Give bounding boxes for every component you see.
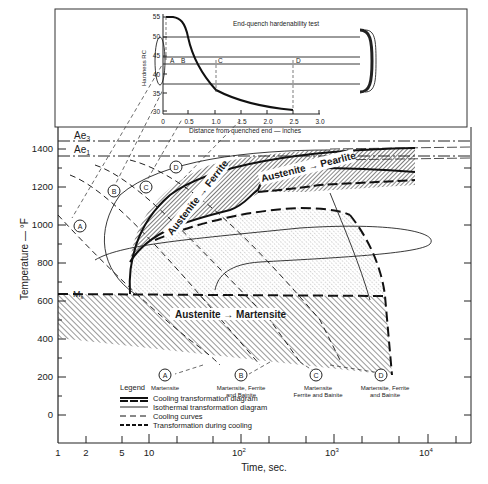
y-tick-1400: 1400	[32, 143, 53, 154]
legend-item-cooling-curves: Cooling curves	[153, 412, 203, 421]
legend-title: Legend	[120, 383, 145, 392]
x-tick-2: 2	[83, 447, 88, 458]
svg-text:B: B	[112, 188, 117, 195]
svg-text:C: C	[143, 184, 148, 191]
y-tick-400: 400	[37, 333, 53, 344]
y-tick-600: 600	[37, 295, 53, 306]
y-tick-200: 200	[37, 371, 53, 382]
ae3-label: Ae3	[74, 130, 90, 142]
inset-point-a: A	[170, 57, 175, 64]
legend-item-transformation: Transformation during cooling	[153, 421, 252, 430]
inset-x-25: 2.5	[289, 118, 298, 125]
marker-d-bottom: D	[375, 369, 387, 381]
svg-text:C: C	[313, 372, 318, 379]
result-a: Martensite	[151, 385, 180, 391]
inset-x-label: Distance from quenched end — inches	[189, 127, 302, 135]
inset-x-15: 1.5	[237, 118, 246, 125]
x-tick-1: 1	[55, 447, 60, 458]
marker-c-top: C	[140, 181, 152, 193]
martensite-label: Austenite → Martensite	[175, 309, 287, 320]
marker-a-bottom: A	[159, 369, 171, 381]
x-tick-100: 102	[232, 447, 247, 458]
svg-text:B: B	[239, 372, 244, 379]
cct-chart: 0 200 400 600 800 1000 1200 1400 Tempera…	[0, 0, 488, 484]
legend-item-isothermal: Isothermal transformation diagram	[153, 403, 267, 412]
inset-title: End-quench hardenability test	[233, 20, 319, 28]
inset-x-30: 3.0	[315, 118, 324, 125]
result-d-line1: Martensite, Ferrite	[361, 385, 410, 391]
inset-x-05: 0.5	[184, 118, 193, 125]
y-tick-1200: 1200	[32, 181, 53, 192]
result-b-line1: Martensite, Ferrite	[217, 385, 266, 391]
y-tick-800: 800	[37, 257, 53, 268]
inset-y-55: 55	[153, 13, 161, 20]
svg-text:A: A	[78, 223, 83, 230]
x-tick-5: 5	[119, 447, 124, 458]
result-c-line1: Martensite	[304, 385, 333, 391]
x-tick-1000: 103	[325, 447, 340, 458]
y-axis-label: Temperature — °F	[19, 218, 30, 300]
y-tick-1000: 1000	[32, 219, 53, 230]
inset-point-c: C	[218, 57, 223, 64]
martensite-region	[58, 294, 392, 375]
inset-y-50: 50	[153, 33, 161, 40]
inset-y-35: 35	[153, 90, 161, 97]
inset-x-20: 2.0	[263, 118, 272, 125]
marker-c-bottom: C	[310, 369, 322, 381]
inset-x-0: 0	[161, 118, 165, 125]
inset-point-d: D	[296, 57, 301, 64]
chart-canvas: 0 200 400 600 800 1000 1200 1400 Tempera…	[0, 0, 488, 484]
legend-item-cct: Cooling transformation diagram	[153, 394, 258, 403]
marker-d-top: D	[170, 161, 182, 173]
ms-label: Ms	[73, 289, 84, 300]
inset-y-label: Hardness RC	[141, 49, 147, 86]
marker-b-top: B	[108, 185, 120, 197]
inset-point-b: B	[181, 57, 185, 64]
svg-text:A: A	[163, 372, 168, 379]
ae1-label: Ae1	[74, 144, 90, 156]
inset-y-45: 45	[153, 52, 161, 59]
inset-y-30: 30	[153, 108, 161, 115]
inset-x-10: 1.0	[211, 118, 220, 125]
result-c-line2: Ferrite and Bainite	[293, 392, 343, 398]
marker-b-bottom: B	[235, 369, 247, 381]
marker-a-top: A	[74, 220, 86, 232]
inset-hardenability-chart: 55 50 45 40 35 30 0 0.5 1.0 1.5 2.0 2.5 …	[141, 13, 376, 135]
result-d-line2: and Bainite	[370, 392, 401, 398]
svg-text:D: D	[173, 164, 178, 171]
x-axis-label: Time, sec.	[241, 462, 287, 473]
x-tick-10: 10	[144, 447, 155, 458]
y-tick-0: 0	[48, 409, 53, 420]
x-tick-10000: 104	[419, 447, 434, 458]
svg-text:D: D	[378, 372, 383, 379]
x-axis	[86, 434, 456, 443]
